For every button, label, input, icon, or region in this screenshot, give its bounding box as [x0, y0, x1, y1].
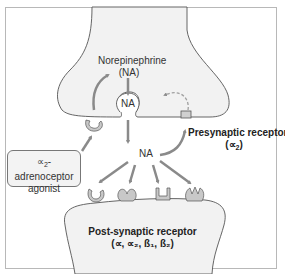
presynaptic-receptor-square: [181, 111, 191, 118]
vesicle-na-label: NA: [118, 98, 138, 110]
arrow-to-presynaptic-receptor: [160, 131, 185, 155]
arrow-to-receptor-3: [153, 165, 158, 182]
alpha-symbol: ∝: [37, 156, 44, 167]
paren-close: ): [239, 139, 242, 150]
postsynaptic-types: (∝, ∝₂, ß₁, ß₂): [85, 238, 200, 250]
arrow-to-receptor-2: [130, 165, 135, 182]
cleft-na-label: NA: [136, 148, 156, 160]
agonist-box: ∝2-adrenoceptor agonist: [7, 150, 81, 187]
presynaptic-receptor-title: Presynaptic receptor: [188, 127, 280, 139]
receptor-u-cup: [156, 188, 170, 200]
presynaptic-receptor-type: (∝2): [188, 139, 280, 154]
postsynaptic-title: Post-synaptic receptor: [85, 226, 200, 238]
alpha2-receptor-presynaptic: [86, 120, 103, 131]
presynaptic-receptor-label: Presynaptic receptor (∝2): [188, 127, 280, 154]
norepinephrine-label: Norepinephrine (NA): [98, 55, 160, 79]
receptor-c-cup: [88, 189, 104, 202]
agonist-line1: ∝2-adrenoceptor: [8, 156, 80, 183]
alpha-symbol: ∝: [229, 139, 236, 150]
postsynaptic-receptor-label: Post-synaptic receptor (∝, ∝₂, ß₁, ß₂): [85, 226, 200, 250]
agonist-line1-text: -adrenoceptor: [15, 156, 74, 182]
receptor-crown: [186, 187, 204, 201]
agonist-line2-text: agonist: [8, 183, 80, 195]
arrow-to-receptor-1: [100, 162, 128, 182]
norepinephrine-text: Norepinephrine: [98, 55, 160, 67]
arrow-to-receptor-4: [160, 161, 190, 183]
arrow-agonist-to-receptor: [82, 137, 91, 151]
receptor-heart: [118, 189, 136, 201]
na-abbr-text: (NA): [98, 67, 160, 79]
